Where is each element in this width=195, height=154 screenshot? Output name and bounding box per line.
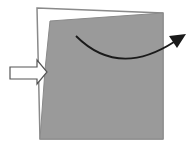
deformed-shape	[40, 13, 163, 139]
shear-diagram	[0, 0, 195, 154]
